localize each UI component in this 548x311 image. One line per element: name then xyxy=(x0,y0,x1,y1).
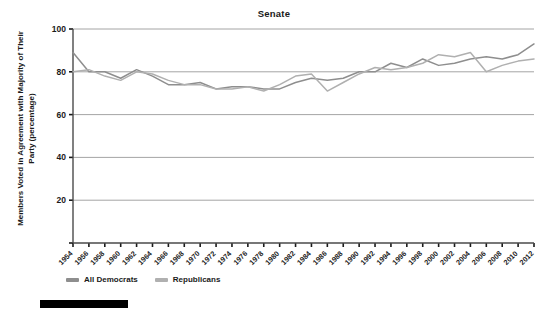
y-axis-ticks-group: 20406080100 xyxy=(52,24,73,243)
x-axis-tick-label: 2000 xyxy=(422,249,440,267)
legend-swatch-all-democrats xyxy=(66,278,79,282)
x-axis-tick-label: 2008 xyxy=(486,249,504,267)
y-axis-tick-label: 80 xyxy=(57,67,67,77)
series-line-all-democrats xyxy=(73,44,534,89)
x-axis-tick-label: 1960 xyxy=(104,249,122,267)
x-axis-tick-label: 1954 xyxy=(57,248,76,267)
x-axis-tick-label: 1970 xyxy=(184,249,202,267)
x-axis-tick-label: 1972 xyxy=(200,249,218,267)
chart-container: Senate Members Voted in Agreement with M… xyxy=(0,0,548,311)
x-axis-tick-label: 1958 xyxy=(88,249,106,267)
x-axis-tick-label: 2012 xyxy=(518,249,536,267)
y-axis-tick-label: 20 xyxy=(57,195,67,205)
x-axis-tick-label: 1988 xyxy=(327,249,345,267)
x-axis-tick-label: 1956 xyxy=(72,249,90,267)
x-axis-tick-label: 1990 xyxy=(343,249,361,267)
y-axis-tick-label: 60 xyxy=(57,110,67,120)
x-axis-tick-label: 2002 xyxy=(438,249,456,267)
x-axis-tick-label: 1984 xyxy=(295,248,314,267)
x-axis-ticks-group: 1954195619581960196219641966196819701972… xyxy=(57,243,536,267)
y-axis-tick-label: 100 xyxy=(52,24,66,34)
x-axis-tick-label: 1982 xyxy=(279,249,297,267)
x-axis-tick-label: 2004 xyxy=(454,248,473,267)
x-axis-tick-label: 1986 xyxy=(311,249,329,267)
x-axis-tick-label: 1978 xyxy=(247,249,265,267)
x-axis-tick-label: 2010 xyxy=(502,249,520,267)
x-axis-tick-label: 1966 xyxy=(152,249,170,267)
legend-item-all-democrats: All Democrats xyxy=(66,275,138,284)
data-series-group xyxy=(73,44,534,91)
x-axis-tick-label: 1992 xyxy=(359,249,377,267)
legend-item-republicans: Republicans xyxy=(155,275,221,284)
x-axis-tick-label: 1994 xyxy=(375,248,394,267)
legend-swatch-republicans xyxy=(155,278,168,282)
x-axis-tick-label: 1998 xyxy=(406,249,424,267)
x-axis-tick-label: 1974 xyxy=(216,248,235,267)
x-axis-tick-label: 1962 xyxy=(120,249,138,267)
legend-label-all-democrats: All Democrats xyxy=(84,275,138,284)
y-axis-tick-label: 40 xyxy=(57,152,67,162)
x-axis-tick-label: 1996 xyxy=(390,249,408,267)
legend-label-republicans: Republicans xyxy=(173,275,221,284)
x-axis-tick-label: 1968 xyxy=(168,249,186,267)
x-axis-tick-label: 1976 xyxy=(231,249,249,267)
x-axis-tick-label: 1964 xyxy=(136,248,155,267)
x-axis-tick-label: 1980 xyxy=(263,249,281,267)
x-axis-tick-label: 2006 xyxy=(470,249,488,267)
plot-area: 20406080100 1954195619581960196219641966… xyxy=(0,0,548,311)
footer-rule xyxy=(40,300,128,308)
chart-legend: All Democrats Republicans xyxy=(66,275,220,284)
